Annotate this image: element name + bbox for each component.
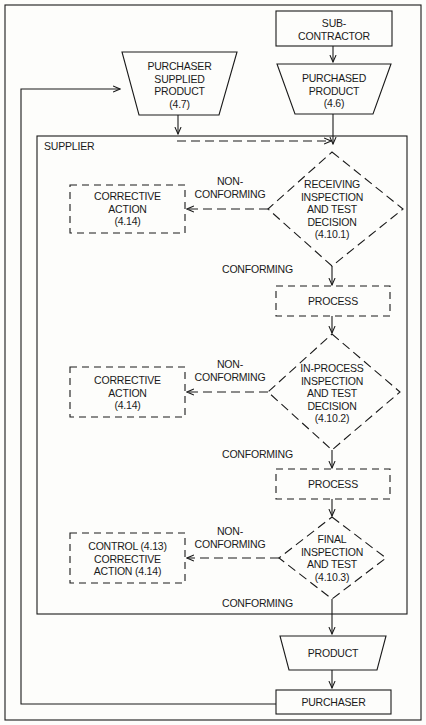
label-line: CONFORMING (190, 371, 270, 384)
process-1-label: PROCESS (276, 295, 390, 308)
label-line: CONFORMING (190, 188, 270, 201)
final-decision-label: FINAL INSPECTION AND TEST (4.10.3) (282, 533, 382, 583)
label-line: (4.10.3) (282, 571, 382, 584)
corrective-action-2-label: CORRECTIVE ACTION (4.14) (70, 374, 185, 412)
label-line: SUB- (276, 17, 392, 30)
nonconforming-2-label: NON- CONFORMING (190, 358, 270, 383)
conforming-1-label: CONFORMING (222, 263, 293, 276)
subcontractor-label: SUB- CONTRACTOR (276, 17, 392, 42)
label-line: CORRECTIVE (70, 374, 185, 387)
label-line: (4.7) (122, 98, 237, 111)
label-line: INSPECTION (282, 191, 382, 204)
conforming-3-label: CONFORMING (222, 597, 293, 610)
label-line: PURCHASED (277, 72, 391, 85)
label-line: AND TEST (282, 558, 382, 571)
inprocess-decision-label: IN-PROCESS INSPECTION AND TEST DECISION … (282, 362, 382, 425)
label-line: CORRECTIVE (70, 190, 185, 203)
label-line: ACTION (70, 203, 185, 216)
corrective-action-1-label: CORRECTIVE ACTION (4.14) (70, 190, 185, 228)
label-line: (4.6) (277, 97, 391, 110)
label-line: (4.10.1) (282, 228, 382, 241)
nonconforming-1-label: NON- CONFORMING (190, 175, 270, 200)
label-line: PURCHASER (122, 60, 237, 73)
label-line: AND TEST (282, 387, 382, 400)
supplier-label: SUPPLIER (44, 140, 94, 153)
label-line: NON- (190, 525, 270, 538)
label-line: NON- (190, 358, 270, 371)
control-corrective-label: CONTROL (4.13) CORRECTIVE ACTION (4.14) (70, 540, 185, 578)
label-line: CONFORMING (190, 538, 270, 551)
product-label: PRODUCT (280, 647, 386, 660)
nonconforming-3-label: NON- CONFORMING (190, 525, 270, 550)
label-line: FINAL (282, 533, 382, 546)
label-line: PRODUCT (277, 85, 391, 98)
process-2-label: PROCESS (276, 478, 390, 491)
label-line: PRODUCT (122, 85, 237, 98)
label-line: DECISION (282, 216, 382, 229)
label-line: INSPECTION (282, 375, 382, 388)
label-line: AND TEST (282, 203, 382, 216)
purchaser-label: PURCHASER (276, 696, 391, 709)
label-line: IN-PROCESS (282, 362, 382, 375)
label-line: INSPECTION (282, 546, 382, 559)
purchased-product-label: PURCHASED PRODUCT (4.6) (277, 72, 391, 110)
label-line: DECISION (282, 400, 382, 413)
label-line: CORRECTIVE (70, 553, 185, 566)
label-line: CONTRACTOR (276, 30, 392, 43)
receiving-decision-label: RECEIVING INSPECTION AND TEST DECISION (… (282, 178, 382, 241)
conforming-2-label: CONFORMING (222, 448, 293, 461)
label-line: (4.10.2) (282, 412, 382, 425)
label-line: RECEIVING (282, 178, 382, 191)
label-line: ACTION (4.14) (70, 565, 185, 578)
purchaser-supplied-product-label: PURCHASER SUPPLIED PRODUCT (4.7) (122, 60, 237, 110)
label-line: NON- (190, 175, 270, 188)
label-line: (4.14) (70, 399, 185, 412)
label-line: CONTROL (4.13) (70, 540, 185, 553)
label-line: ACTION (70, 387, 185, 400)
label-line: SUPPLIED (122, 73, 237, 86)
label-line: (4.14) (70, 215, 185, 228)
